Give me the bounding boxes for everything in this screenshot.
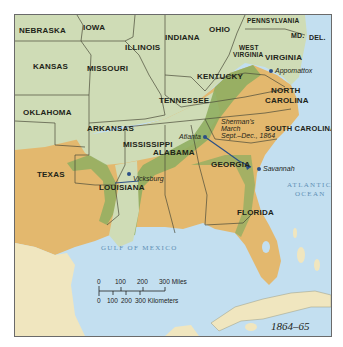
city-label-appomattox: Appomattox (275, 67, 312, 75)
state-label-kentucky: KENTUCKY (197, 72, 243, 81)
scale-km-100: 100 (107, 297, 118, 304)
water-label-gulf: GULF OF MEXICO (101, 244, 178, 253)
state-label-ohio: OHIO (209, 25, 230, 34)
atlanta-marker-icon (203, 135, 207, 139)
state-label-iowa: IOWA (83, 23, 105, 32)
scale-mile-300: 300 Miles (159, 278, 187, 285)
savannah-marker-icon (257, 167, 261, 171)
scale-bar-graphic (97, 286, 177, 296)
state-label-missouri: MISSOURI (87, 64, 128, 73)
state-label-oklahoma: OKLAHOMA (23, 108, 72, 117)
vicksburg-marker-icon (127, 172, 131, 176)
state-label-kansas: KANSAS (33, 62, 68, 71)
city-label-savannah: Savannah (263, 165, 295, 173)
scale-km-0: 0 (97, 297, 101, 304)
state-label-arkansas: ARKANSAS (87, 124, 134, 133)
scale-mile-100: 100 (115, 278, 126, 285)
scale-mile-200: 200 (137, 278, 148, 285)
state-label-alabama: ALABAMA (153, 148, 195, 157)
state-label-north-carolina-2: CAROLINA (265, 96, 309, 105)
water-label-atlantic-2: OCEAN (295, 190, 326, 199)
state-label-georgia: GEORGIA (211, 160, 250, 169)
state-label-tennessee: TENNESSEE (159, 96, 209, 105)
state-label-maryland: MD. (291, 31, 304, 40)
appomattox-marker-icon (269, 69, 273, 73)
state-label-west-virginia-2: VIRGINIA (233, 50, 264, 59)
state-label-louisiana: LOUISIANA (99, 183, 145, 192)
state-label-florida: FLORIDA (237, 208, 274, 217)
scale-km-300: 300 Kilometers (135, 297, 178, 304)
scale-km-200: 200 (121, 297, 132, 304)
map-year-label: 1864–65 (271, 320, 310, 332)
state-label-delaware: DEL. (309, 33, 326, 42)
civil-war-map: NEBRASKA IOWA ILLINOIS INDIANA OHIO PENN… (14, 14, 332, 337)
state-label-indiana: INDIANA (165, 33, 200, 42)
annotation-sherman-line-3: Sept.–Dec., 1864 (221, 132, 275, 140)
state-label-illinois: ILLINOIS (125, 43, 160, 52)
state-label-virginia: VIRGINIA (265, 53, 302, 62)
state-label-texas: TEXAS (37, 170, 65, 179)
state-label-nebraska: NEBRASKA (19, 26, 66, 35)
scale-mile-0: 0 (97, 278, 101, 285)
state-label-north-carolina-1: NORTH (271, 86, 300, 95)
city-label-atlanta: Atlanta (179, 133, 201, 141)
city-label-vicksburg: Vicksburg (133, 175, 164, 183)
water-label-atlantic-1: ATLANTIC (287, 181, 332, 190)
state-label-pennsylvania: PENNSYLVANIA (247, 16, 299, 25)
